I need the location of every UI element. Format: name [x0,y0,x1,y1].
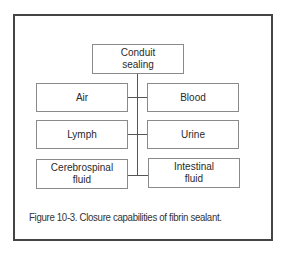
node-label: Intestinal [174,161,214,173]
node-blood: Blood [147,83,239,112]
node-label: Conduit [121,47,155,59]
branch-connector-row1 [127,97,147,98]
node-urine: Urine [147,120,239,149]
node-label: Cerebrospinal [51,162,113,174]
node-label: Urine [181,129,205,141]
node-lymph: Lymph [36,120,128,149]
branch-connector-row2 [127,134,147,135]
node-air: Air [36,83,128,112]
node-label: fluid [174,173,214,185]
node-cerebrospinal-fluid: Cerebrospinal fluid [36,159,128,189]
node-label: Air [76,92,88,104]
node-label: Lymph [67,129,97,141]
node-label: sealing [121,59,155,71]
branch-connector-row3 [127,175,148,176]
node-label: Blood [180,92,206,104]
node-label: fluid [51,174,113,186]
figure-caption: Figure 10-3. Closure capabilities of fib… [29,211,242,223]
node-intestinal-fluid: Intestinal fluid [148,158,240,188]
node-conduit-sealing: Conduit sealing [92,44,184,74]
trunk-connector [137,73,138,176]
